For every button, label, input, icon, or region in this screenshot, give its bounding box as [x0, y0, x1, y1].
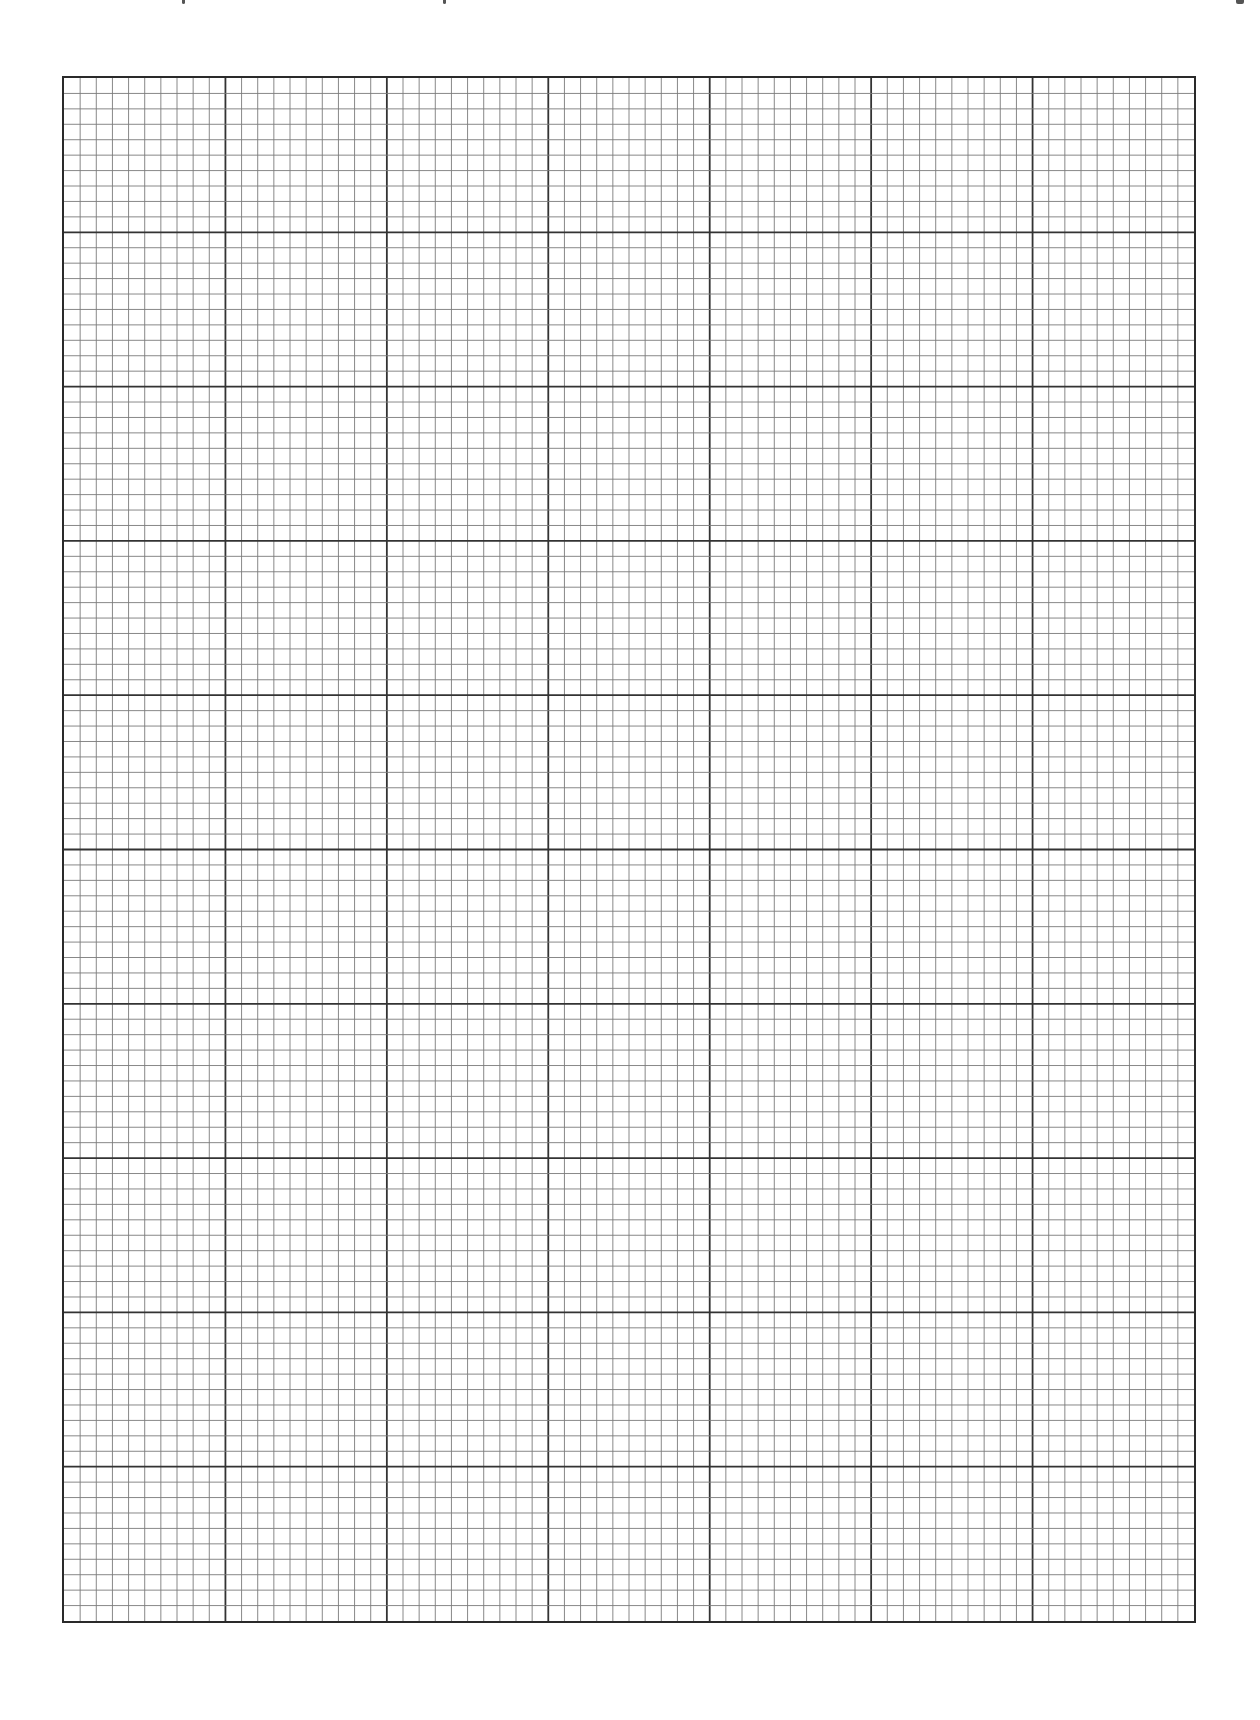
- header-fragment: [182, 0, 185, 4]
- document-page: [0, 0, 1260, 1720]
- graph-paper-grid: [62, 76, 1196, 1623]
- header-fragment: [1236, 0, 1244, 4]
- grid-lines: [64, 78, 1194, 1621]
- header-fragment: [443, 0, 446, 4]
